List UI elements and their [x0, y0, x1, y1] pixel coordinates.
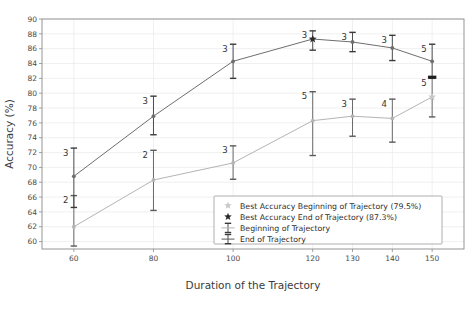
data-point-count-label: 3: [342, 32, 347, 42]
data-point-marker: [351, 40, 355, 44]
data-point-count-label: 5: [421, 78, 426, 88]
data-point-count-label: 2: [143, 150, 148, 160]
x-axis-ticks: 6080100120130140150: [69, 249, 439, 263]
x-tick-label: 130: [345, 254, 360, 263]
data-point-marker: [72, 174, 76, 178]
data-point-count-label: 3: [222, 145, 227, 155]
y-tick-label: 86: [27, 44, 37, 53]
legend-label: Best Accuracy End of Trajectory (87.3%): [240, 213, 397, 222]
data-point-marker: [390, 117, 394, 121]
chart-canvas: 6080100120130140150 60626466687072747678…: [0, 0, 473, 310]
data-point-marker: [311, 119, 315, 123]
data-point-count-label: 3: [381, 35, 386, 45]
data-point-count-label: 2: [63, 195, 68, 205]
y-tick-label: 60: [27, 237, 37, 246]
y-tick-label: 70: [27, 163, 37, 172]
y-tick-label: 74: [27, 133, 37, 142]
y-tick-label: 64: [27, 208, 37, 217]
x-tick-label: 60: [69, 254, 79, 263]
x-tick-label: 120: [306, 254, 321, 263]
data-point-marker: [231, 161, 235, 165]
series-end: 3333335: [63, 30, 435, 207]
data-point-marker: [390, 46, 394, 50]
data-point-marker: [152, 114, 156, 118]
y-tick-label: 72: [27, 148, 37, 157]
data-point-count-label: 5: [302, 91, 307, 101]
legend-label: Beginning of Trajectory: [240, 224, 331, 233]
data-point-count-label: 5: [421, 44, 426, 54]
data-point-marker: [72, 225, 76, 229]
data-point-marker: [430, 59, 434, 63]
y-axis-label: Accuracy (%): [3, 99, 15, 168]
y-tick-label: 80: [27, 89, 37, 98]
accuracy-vs-duration-chart: 6080100120130140150 60626466687072747678…: [0, 0, 473, 310]
data-point-marker: [231, 59, 235, 63]
data-point-count-label: 3: [342, 99, 347, 109]
y-tick-label: 68: [27, 178, 37, 187]
y-tick-label: 62: [27, 222, 37, 231]
y-tick-label: 76: [27, 119, 37, 128]
legend-entry[interactable]: Best Accuracy End of Trajectory (87.3%): [224, 213, 397, 222]
data-point-count-label: 3: [143, 96, 148, 106]
legend-entry[interactable]: Best Accuracy Beginning of Trajectory (7…: [224, 202, 421, 211]
data-point-marker: [351, 114, 355, 118]
y-tick-label: 84: [27, 59, 37, 68]
data-point-count-label: 3: [302, 30, 307, 40]
y-tick-label: 66: [27, 193, 37, 202]
data-point-marker: [152, 178, 156, 182]
data-point-count-label: 3: [63, 148, 68, 158]
y-tick-label: 78: [27, 104, 37, 113]
y-axis-ticks: 60626466687072747678808284868890: [27, 15, 42, 247]
x-tick-label: 80: [149, 254, 159, 263]
series-line: [74, 39, 432, 176]
chart-legend[interactable]: Best Accuracy Beginning of Trajectory (7…: [214, 196, 442, 244]
data-point-count-label: 3: [222, 44, 227, 54]
y-tick-label: 90: [27, 15, 37, 24]
x-tick-label: 140: [385, 254, 400, 263]
legend-label: End of Trajectory: [240, 235, 306, 244]
y-tick-label: 88: [27, 30, 37, 39]
x-axis-label: Duration of the Trajectory: [186, 279, 321, 291]
x-tick-label: 150: [425, 254, 440, 263]
data-point-count-label: 4: [381, 99, 386, 109]
legend-label: Best Accuracy Beginning of Trajectory (7…: [240, 202, 421, 211]
y-tick-label: 82: [27, 74, 37, 83]
x-tick-label: 100: [226, 254, 241, 263]
